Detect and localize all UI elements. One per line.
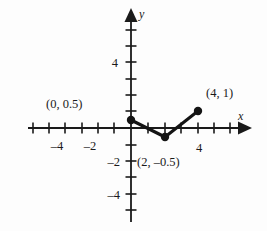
data-point-0-0_5	[127, 116, 135, 124]
y-tick-label-neg4: –4	[107, 188, 121, 202]
y-axis-arrowhead	[125, 8, 138, 22]
data-point-4-1	[194, 107, 202, 115]
coordinate-plane-svg: y x –4 –2 4 4 –2 –4 (0, 0.5) (2, –0.5) (…	[0, 0, 267, 231]
point-label-4-1: (4, 1)	[206, 86, 233, 100]
x-tick-label-neg4: –4	[50, 139, 64, 153]
x-axis-arrowhead	[238, 122, 252, 135]
y-tick-label-neg2: –2	[107, 155, 121, 169]
y-tick-label-4: 4	[112, 56, 119, 70]
x-tick-label-4: 4	[196, 141, 203, 155]
x-axis-label: x	[237, 109, 244, 123]
y-axis-label: y	[138, 7, 145, 21]
graph-figure: y x –4 –2 4 4 –2 –4 (0, 0.5) (2, –0.5) (…	[0, 0, 267, 231]
x-tick-label-neg2: –2	[83, 139, 97, 153]
point-label-0-0_5: (0, 0.5)	[46, 97, 82, 111]
point-label-2-neg0_5: (2, –0.5)	[137, 155, 180, 169]
data-point-2-neg0_5	[161, 133, 169, 141]
